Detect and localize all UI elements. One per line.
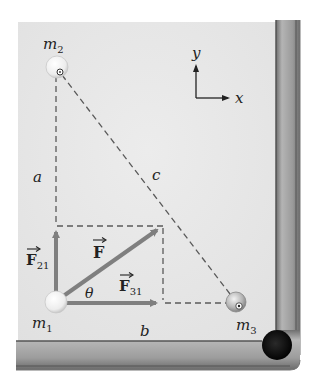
axis-x-label: x — [235, 89, 244, 107]
label-b: b — [140, 322, 150, 340]
ball-m1 — [45, 291, 67, 313]
axis-y-label: y — [191, 44, 201, 62]
label-a: a — [33, 168, 42, 186]
label-theta: θ — [85, 285, 94, 301]
ball-m3 — [226, 292, 246, 312]
svg-text:F: F — [93, 243, 105, 262]
ball-m2 — [46, 56, 68, 78]
billiard-force-diagram: y x m2 m1 m3 a b c F21 F F31 θ — [0, 0, 316, 390]
corner-pocket — [262, 330, 292, 360]
right-rail — [276, 20, 300, 355]
label-c: c — [152, 166, 161, 184]
